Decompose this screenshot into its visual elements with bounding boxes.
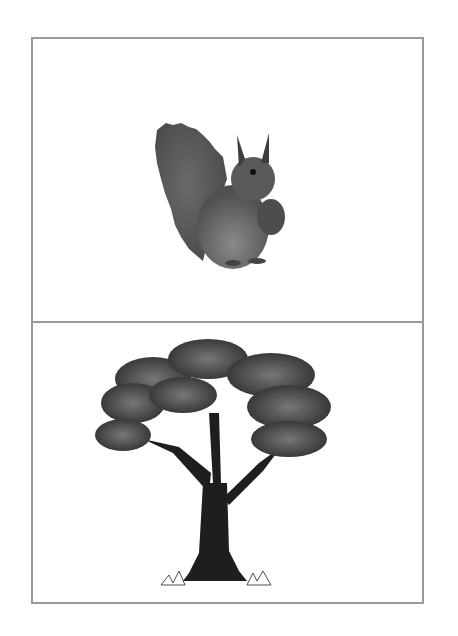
tree-illustration — [33, 323, 422, 602]
picture-card — [31, 37, 424, 604]
squirrel-illustration — [33, 39, 422, 321]
tree-panel — [33, 323, 422, 602]
squirrel-panel — [33, 39, 422, 321]
